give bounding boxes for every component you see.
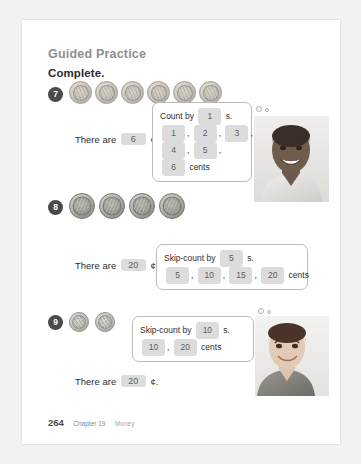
total-label: cents [289, 270, 309, 280]
total-label: cents [189, 162, 209, 172]
answer-prefix: There are [75, 134, 116, 145]
thought-dot-icon [256, 106, 262, 112]
answer-sentence-9: There are 20 ¢. [75, 375, 158, 387]
footer-topic: Money [115, 420, 135, 427]
bubble-prompt: Skip-count by 5 s. [164, 250, 300, 267]
page-number: 264 [48, 417, 64, 428]
problem-number-9: 9 [48, 315, 63, 330]
instruction-text: Complete. [48, 67, 105, 79]
bubble-prompt-blank[interactable]: 1 [198, 108, 221, 125]
answer-blank[interactable]: 20 [121, 375, 146, 387]
thought-dot-icon [258, 308, 264, 314]
coin-nickel [159, 193, 185, 219]
thought-dot-icon [265, 108, 269, 112]
section-title: Guided Practice [48, 47, 146, 61]
speech-bubble-9: Skip-count by 10 s. 10, 20 cents [132, 316, 254, 362]
coin-penny [173, 81, 196, 104]
coin-penny [199, 81, 222, 104]
worksheet-page: Guided Practice Complete. 7 There are 6 … [22, 20, 340, 444]
coin-penny [147, 81, 170, 104]
bubble-total-row: 6 cents [160, 159, 244, 176]
bubble-prompt-suffix: s. [226, 111, 233, 121]
count-blank[interactable]: 3 [225, 125, 248, 142]
bubble-prompt-prefix: Count by [160, 111, 194, 121]
coin-dime [95, 312, 115, 332]
bubble-prompt-prefix: Skip-count by [140, 325, 192, 335]
coin-nickel [69, 193, 95, 219]
coin-penny [95, 81, 118, 104]
student-photo-2 [255, 316, 329, 396]
answer-prefix: There are [75, 260, 116, 271]
coin-penny [69, 81, 92, 104]
bubble-prompt-suffix: s. [247, 253, 254, 263]
thought-dot-icon [267, 310, 271, 314]
coin-nickel [129, 193, 155, 219]
answer-prefix: There are [75, 376, 116, 387]
coin-nickel [99, 193, 125, 219]
total-blank[interactable]: 20 [174, 339, 197, 356]
count-blank[interactable]: 5 [194, 142, 217, 159]
count-blank[interactable]: 2 [194, 125, 217, 142]
bubble-prompt: Count by 1 s. [160, 108, 244, 125]
bubble-count-row: 1, 2, 3, [160, 125, 244, 142]
footer-chapter: Chapter 19 [73, 420, 105, 427]
coin-penny [121, 81, 144, 104]
bubble-count-row: 4, 5, [160, 142, 244, 159]
count-blank[interactable]: 4 [162, 142, 185, 159]
speech-bubble-7: Count by 1 s. 1, 2, 3, 4, 5, 6 cents [152, 102, 252, 182]
student-photo-1 [254, 116, 329, 202]
bubble-prompt: Skip-count by 10 s. [140, 322, 246, 339]
total-blank[interactable]: 6 [162, 159, 185, 176]
coin-dime [69, 312, 89, 332]
problem-number-7: 7 [48, 87, 63, 102]
bubble-prompt-blank[interactable]: 10 [196, 322, 219, 339]
answer-blank[interactable]: 6 [121, 133, 146, 145]
count-blank[interactable]: 5 [166, 267, 189, 284]
bubble-count-row: 10, 20 cents [140, 339, 246, 356]
answer-sentence-7: There are 6 ¢. [75, 133, 158, 145]
answer-sentence-8: There are 20 ¢. [75, 259, 158, 271]
page-footer: 264 Chapter 19 Money [48, 412, 134, 430]
count-blank[interactable]: 1 [162, 125, 185, 142]
bubble-prompt-blank[interactable]: 5 [220, 250, 243, 267]
speech-bubble-8: Skip-count by 5 s. 5, 10, 15, 20 cents [156, 244, 308, 290]
count-blank[interactable]: 15 [229, 267, 252, 284]
count-blank[interactable]: 10 [198, 267, 221, 284]
answer-suffix: ¢. [150, 376, 158, 387]
total-label: cents [201, 342, 221, 352]
bubble-prompt-prefix: Skip-count by [164, 253, 216, 263]
total-blank[interactable]: 20 [261, 267, 284, 284]
count-blank[interactable]: 10 [142, 339, 165, 356]
bubble-count-row: 5, 10, 15, 20 cents [164, 267, 300, 284]
bubble-prompt-suffix: s. [223, 325, 230, 335]
answer-blank[interactable]: 20 [121, 259, 146, 271]
problem-number-8: 8 [48, 200, 63, 215]
